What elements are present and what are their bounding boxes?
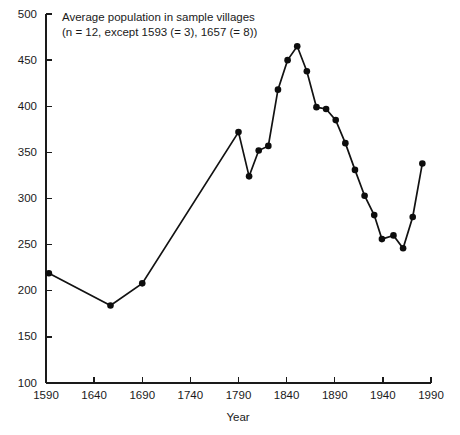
y-tick-label: 200 [18, 284, 37, 296]
x-tick-label: 1890 [322, 389, 348, 401]
chart-container: 100150200250300350400450500 159016401690… [0, 0, 460, 435]
data-point [284, 57, 291, 64]
x-tick-label: 1940 [370, 389, 396, 401]
x-tick-label: 1790 [226, 389, 252, 401]
x-tick-label: 1840 [274, 389, 300, 401]
data-point [352, 167, 359, 174]
y-tick-label: 450 [18, 54, 37, 66]
data-point [371, 212, 378, 219]
x-tick-label: 1590 [33, 389, 59, 401]
data-point [139, 280, 146, 287]
chart-title: Average population in sample villages [62, 11, 255, 23]
y-tick-label: 350 [18, 146, 37, 158]
data-point [379, 236, 386, 243]
population-line [49, 46, 422, 305]
x-tick-label: 1990 [418, 389, 444, 401]
y-tick-label: 400 [18, 100, 37, 112]
x-tick-label: 1690 [129, 389, 155, 401]
data-point [361, 192, 368, 199]
data-point [294, 43, 301, 50]
data-point [332, 117, 339, 124]
labels-group: Average population in sample villages (n… [62, 11, 257, 423]
line-chart: 100150200250300350400450500 159016401690… [0, 0, 460, 435]
data-point [323, 106, 330, 113]
x-tick-label: 1740 [178, 389, 204, 401]
axes-group [46, 14, 431, 383]
data-point [409, 214, 416, 221]
data-point [246, 173, 253, 180]
data-point [107, 302, 114, 309]
chart-subtitle: (n = 12, except 1593 (= 3), 1657 (= 8)) [62, 26, 257, 38]
data-point [46, 270, 53, 277]
y-tick-label: 500 [18, 8, 37, 20]
y-tick-label: 300 [18, 192, 37, 204]
x-tick-label: 1640 [81, 389, 107, 401]
y-tick-label: 150 [18, 330, 37, 342]
data-point [419, 160, 426, 167]
data-series-group [46, 43, 426, 309]
y-tick-label: 250 [18, 238, 37, 250]
y-tick-group: 100150200250300350400450500 [18, 8, 52, 389]
data-point [313, 104, 320, 111]
data-point [265, 143, 272, 150]
y-tick-label: 100 [18, 377, 37, 389]
data-point [342, 140, 349, 147]
data-point [304, 68, 311, 75]
population-markers [46, 43, 426, 309]
data-point [235, 129, 242, 136]
x-tick-group: 159016401690174017901840189019401990 [33, 377, 444, 401]
x-axis-title: Year [226, 411, 249, 423]
data-point [390, 232, 397, 239]
data-point [255, 147, 262, 154]
data-point [400, 245, 407, 252]
data-point [275, 86, 282, 93]
